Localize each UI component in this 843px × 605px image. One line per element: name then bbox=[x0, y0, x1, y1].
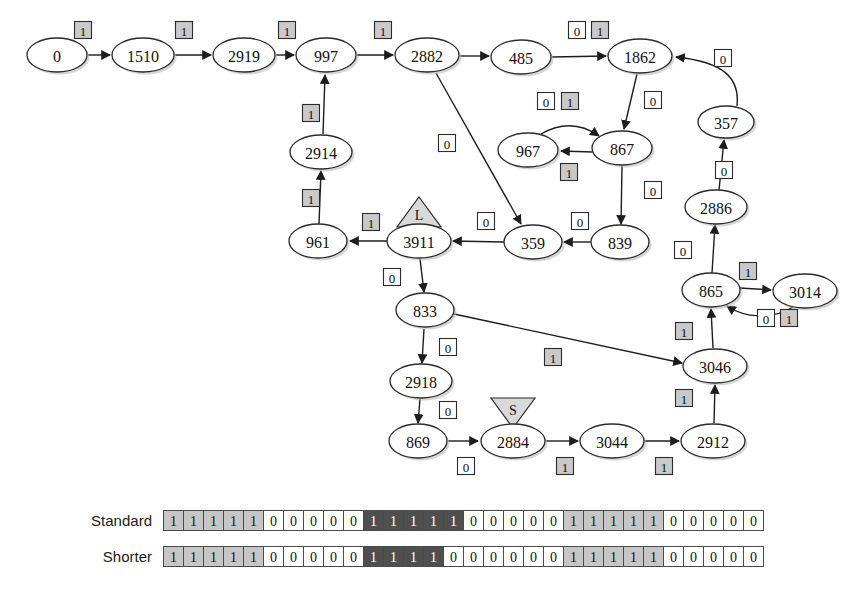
bit-strip-section: Standard111110000011111000001111100000Sh… bbox=[0, 500, 843, 605]
bit-strip-label: Shorter bbox=[62, 548, 164, 565]
edge-bit-label: 1 bbox=[375, 22, 392, 39]
edge-bit-value: 0 bbox=[720, 52, 727, 67]
graph-node[interactable]: 833 bbox=[396, 293, 457, 330]
bit-cell: 1 bbox=[203, 546, 224, 567]
bit-cell: 0 bbox=[283, 546, 304, 567]
graph-node[interactable]: 2912 bbox=[681, 424, 748, 461]
bit-cell: 0 bbox=[263, 510, 284, 531]
node-label: 967 bbox=[516, 143, 540, 160]
node-label: 2919 bbox=[228, 48, 260, 65]
edge-2918-869 bbox=[418, 399, 420, 423]
bit-strip-row: Shorter111110000011110000001111100000 bbox=[62, 546, 764, 567]
graph-node[interactable]: 839 bbox=[591, 225, 652, 262]
graph-node[interactable]: 485 bbox=[491, 40, 554, 77]
edge-bit-label: 1 bbox=[561, 164, 578, 181]
graph-node[interactable]: 3046 bbox=[683, 349, 750, 386]
node-label: 3911 bbox=[403, 234, 434, 251]
edge-bit-label: 1 bbox=[75, 22, 92, 39]
edge-bit-label: 0 bbox=[439, 135, 456, 152]
node-label: 485 bbox=[509, 50, 533, 67]
bit-cell: 1 bbox=[563, 510, 584, 531]
graph-node[interactable]: 3014 bbox=[773, 274, 840, 311]
graph-node[interactable]: 867 bbox=[592, 131, 655, 168]
graph-node[interactable]: 967 bbox=[498, 133, 561, 170]
edge-bit-label: 1 bbox=[781, 310, 798, 327]
edge-bit-value: 0 bbox=[721, 164, 728, 179]
graph-node[interactable]: 357 bbox=[698, 106, 757, 141]
bit-cell: 0 bbox=[663, 510, 684, 531]
edge-bit-label: 0 bbox=[645, 92, 662, 109]
bit-cell: 1 bbox=[223, 546, 244, 567]
bit-cell: 1 bbox=[383, 510, 404, 531]
edge-867-839 bbox=[621, 166, 622, 224]
node-layer: 0151029199972882485186235796786729142886… bbox=[27, 38, 840, 461]
edge-bit-label: 0 bbox=[384, 269, 401, 286]
graph-node[interactable]: 2914 bbox=[290, 135, 355, 172]
edge-bit-value: 1 bbox=[284, 24, 291, 39]
edge-bit-label: 0 bbox=[675, 242, 692, 259]
graph-node[interactable]: 3911 bbox=[387, 224, 454, 261]
bit-cell: 0 bbox=[463, 510, 484, 531]
graph-node[interactable]: 2919 bbox=[213, 38, 278, 75]
node-label: 2918 bbox=[405, 374, 437, 391]
edge-bit-value: 1 bbox=[567, 95, 574, 110]
figure-canvas: LS 0151029199972882485186235796786729142… bbox=[0, 0, 843, 605]
node-label: 3046 bbox=[699, 359, 731, 376]
bit-cell: 0 bbox=[743, 510, 764, 531]
bit-cell: 0 bbox=[683, 546, 704, 567]
bit-cell: 0 bbox=[683, 510, 704, 531]
graph-node[interactable]: 997 bbox=[296, 38, 359, 75]
edge-bit-label: 0 bbox=[478, 213, 495, 230]
edge-bit-value: 1 bbox=[562, 460, 569, 475]
edge-bit-label: 0 bbox=[715, 50, 732, 67]
edge-bit-label: 1 bbox=[303, 105, 320, 122]
bit-cell: 0 bbox=[463, 546, 484, 567]
edge-bit-label: 1 bbox=[363, 214, 380, 231]
edge-bit-label: 0 bbox=[458, 458, 475, 475]
node-marker-l: L bbox=[397, 197, 441, 227]
graph-node[interactable]: 2884 bbox=[481, 424, 548, 461]
node-label: 833 bbox=[413, 303, 437, 320]
edge-833-3046 bbox=[454, 314, 682, 363]
graph-node[interactable]: 961 bbox=[289, 224, 350, 261]
graph-node[interactable]: 3044 bbox=[580, 424, 647, 461]
node-label: 0 bbox=[53, 48, 61, 65]
edge-bit-value: 1 bbox=[566, 166, 573, 181]
graph-node[interactable]: 1510 bbox=[112, 38, 177, 75]
bit-cell: 1 bbox=[423, 546, 444, 567]
edge-bit-value: 1 bbox=[597, 24, 604, 39]
graph-node[interactable]: 1862 bbox=[608, 39, 675, 76]
bit-cell: 0 bbox=[323, 510, 344, 531]
bit-cell: 0 bbox=[343, 546, 364, 567]
edge-bit-value: 0 bbox=[763, 312, 770, 327]
edge-485-1862 bbox=[552, 56, 606, 57]
edge-967-867 bbox=[541, 126, 599, 136]
edge-bit-value: 1 bbox=[550, 351, 557, 366]
bit-cell: 0 bbox=[543, 510, 564, 531]
edge-bit-value: 1 bbox=[181, 24, 188, 39]
edge-bit-label: 1 bbox=[303, 190, 320, 207]
graph-node[interactable]: 2918 bbox=[390, 364, 455, 401]
edge-bit-label: 0 bbox=[538, 93, 555, 110]
graph-node[interactable]: 865 bbox=[682, 273, 743, 310]
node-label: 839 bbox=[608, 235, 632, 252]
graph-node[interactable]: 2886 bbox=[685, 190, 750, 227]
bit-cell: 0 bbox=[503, 510, 524, 531]
edge-bit-value: 0 bbox=[444, 137, 451, 152]
graph-node[interactable]: 359 bbox=[504, 225, 565, 262]
edge-bit-value: 1 bbox=[368, 216, 375, 231]
edge-bit-value: 1 bbox=[661, 460, 668, 475]
bit-cell: 0 bbox=[303, 510, 324, 531]
bit-cell: 0 bbox=[483, 546, 504, 567]
node-label: 961 bbox=[306, 234, 330, 251]
edge-bit-value: 1 bbox=[745, 265, 752, 280]
edge-bit-label: 0 bbox=[569, 22, 586, 39]
graph-node[interactable]: 869 bbox=[389, 424, 450, 461]
graph-node[interactable]: 0 bbox=[27, 38, 90, 75]
bit-cell: 0 bbox=[723, 510, 744, 531]
edge-bit-value: 0 bbox=[445, 404, 452, 419]
edge-bit-label: 0 bbox=[758, 310, 775, 327]
bit-cell: 1 bbox=[583, 546, 604, 567]
bit-cell: 0 bbox=[443, 546, 464, 567]
graph-node[interactable]: 2882 bbox=[395, 38, 462, 75]
